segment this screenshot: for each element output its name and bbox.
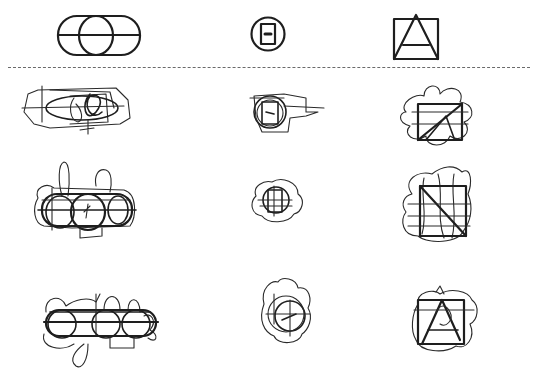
scribble-square-row3 <box>410 284 484 358</box>
scribble-stadium-row2 <box>32 158 142 248</box>
scribble-circle-row3 <box>256 274 316 354</box>
scribble-square-row2 <box>398 164 478 248</box>
scribble-stadium-row1 <box>20 82 130 142</box>
scribble-circle-row2 <box>248 176 308 226</box>
reference-figure-stadium <box>56 14 146 58</box>
reference-figure-circle <box>250 15 286 53</box>
reference-figure-square <box>391 13 441 61</box>
scribble-square-row1 <box>396 82 478 152</box>
separator-line <box>8 67 530 68</box>
scribble-stadium-row3 <box>40 290 170 370</box>
scribble-circle-row1 <box>248 88 328 148</box>
